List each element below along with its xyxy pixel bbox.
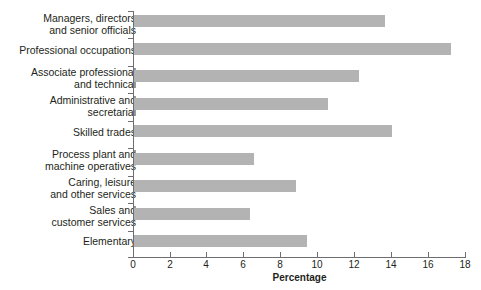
bar-process-plant xyxy=(134,153,254,165)
x-axis-tick xyxy=(465,252,466,257)
x-axis-tick xyxy=(206,252,207,257)
category-label-line: Sales and xyxy=(0,205,136,217)
y-axis-tick xyxy=(128,38,133,39)
category-label-associate-professional: Associate professional and technical xyxy=(0,67,136,90)
x-axis-tick-label: 6 xyxy=(228,259,258,271)
category-label-line: machine operatives xyxy=(0,161,136,173)
category-label-administrative: Administrative and secretarial xyxy=(0,95,136,118)
category-label-caring-leisure: Caring, leisure and other services xyxy=(0,177,136,200)
y-axis-tick xyxy=(128,203,133,204)
x-axis-tick-label: 14 xyxy=(376,259,406,271)
x-axis-tick-label: 12 xyxy=(339,259,369,271)
x-axis-tick-label: 16 xyxy=(413,259,443,271)
category-label-line: Managers, directors xyxy=(0,13,136,25)
bar-professional xyxy=(134,43,451,55)
x-axis-tick xyxy=(354,252,355,257)
bar-skilled-trades xyxy=(134,125,392,137)
x-axis-tick xyxy=(170,252,171,257)
x-axis-tick xyxy=(317,252,318,257)
x-axis-line xyxy=(133,257,466,258)
category-label-line: Caring, leisure xyxy=(0,177,136,189)
category-label-line: Associate professional xyxy=(0,67,136,79)
x-axis-tick-label: 18 xyxy=(450,259,480,271)
y-axis-tick xyxy=(128,176,133,177)
y-axis-tick xyxy=(128,11,133,12)
category-label-professional: Professional occupations xyxy=(0,45,136,57)
x-axis-tick xyxy=(280,252,281,257)
bar-managers xyxy=(134,15,385,27)
x-axis-tick-label: 4 xyxy=(191,259,221,271)
category-label-skilled-trades: Skilled trades xyxy=(0,127,136,139)
category-label-line: and technical xyxy=(0,79,136,91)
y-axis-tick xyxy=(128,66,133,67)
category-label-process-plant: Process plant and machine operatives xyxy=(0,149,136,172)
x-axis-tick xyxy=(243,252,244,257)
category-label-line: Skilled trades xyxy=(0,127,136,139)
category-label-managers: Managers, directors and senior officials xyxy=(0,13,136,36)
category-label-sales: Sales and customer services xyxy=(0,205,136,228)
bar-associate-professional xyxy=(134,70,359,82)
y-axis-tick xyxy=(128,93,133,94)
x-axis-title: Percentage xyxy=(133,272,466,284)
x-axis-tick-label: 0 xyxy=(118,259,148,271)
bar-chart: Managers, directors and senior officials… xyxy=(0,0,481,290)
category-label-elementary: Elementary xyxy=(0,236,136,248)
bar-elementary xyxy=(134,235,307,247)
x-axis-tick xyxy=(133,252,134,257)
category-label-line: Professional occupations xyxy=(0,45,136,57)
category-label-line: and senior officials xyxy=(0,25,136,37)
x-axis-tick-label: 8 xyxy=(265,259,295,271)
category-label-line: and other services xyxy=(0,189,136,201)
y-axis-tick xyxy=(128,121,133,122)
bar-administrative xyxy=(134,98,328,110)
x-axis-tick xyxy=(391,252,392,257)
bar-sales xyxy=(134,208,250,220)
y-axis-tick xyxy=(128,231,133,232)
y-axis-tick xyxy=(128,257,133,258)
plot-area: Managers, directors and senior officials… xyxy=(0,0,481,290)
category-label-line: customer services xyxy=(0,217,136,229)
x-axis-tick-label: 2 xyxy=(155,259,185,271)
category-label-line: Administrative and xyxy=(0,95,136,107)
y-axis-tick xyxy=(128,148,133,149)
category-label-line: Elementary xyxy=(0,236,136,248)
bar-caring-leisure xyxy=(134,180,296,192)
y-axis-line xyxy=(133,11,134,258)
category-label-line: Process plant and xyxy=(0,149,136,161)
x-axis-tick-label: 10 xyxy=(302,259,332,271)
category-label-line: secretarial xyxy=(0,107,136,119)
x-axis-tick xyxy=(428,252,429,257)
